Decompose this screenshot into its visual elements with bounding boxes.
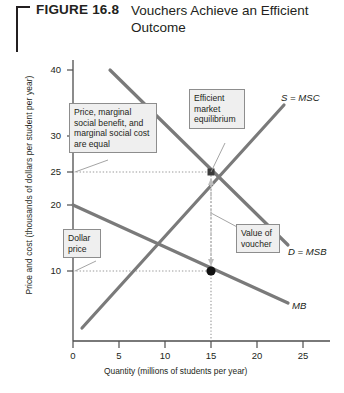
x-tick-label-20: 20 xyxy=(246,350,268,361)
curve-label-demand-msb: D = MSB xyxy=(288,246,327,257)
curve-label-supply-msc: S = MSC xyxy=(281,92,320,103)
y-tick-label-10: 10 xyxy=(35,265,61,276)
x-tick-label-10: 10 xyxy=(154,350,176,361)
x-tick-label-25: 25 xyxy=(292,350,314,361)
y-axis-label: Price and cost (thousands of dollars per… xyxy=(24,60,34,310)
marker-voucher-price-point xyxy=(206,266,215,275)
curve-label-marginal-benefit: MB xyxy=(292,300,306,311)
figure-root: FIGURE 16.8 Vouchers Achieve an Efficien… xyxy=(0,0,344,393)
chart-plot-area: 40 30 25 20 10 0 5 10 15 20 25 Price and… xyxy=(0,0,344,393)
leader-dollar-price-note xyxy=(75,261,96,271)
callout-equal-price-msb-msc: Price, marginal social benefit, and marg… xyxy=(69,103,157,153)
voucher-value-arrow xyxy=(208,178,214,266)
y-tick-label-30: 30 xyxy=(35,130,61,141)
x-tick-label-0: 0 xyxy=(62,350,84,361)
x-tick-label-5: 5 xyxy=(108,350,130,361)
y-tick-label-25: 25 xyxy=(35,166,61,177)
y-tick-label-20: 20 xyxy=(35,199,61,210)
callout-dollar-price: Dollar price xyxy=(63,229,101,258)
leader-voucher-note xyxy=(211,213,239,228)
leader-equilibrium-note xyxy=(211,143,225,172)
callout-efficient-market-equilibrium: Efficient market equilibrium xyxy=(189,89,245,129)
leader-equal-note xyxy=(75,160,108,172)
x-tick-label-15: 15 xyxy=(200,350,222,361)
y-tick-label-40: 40 xyxy=(35,64,61,75)
callout-value-of-voucher: Value of voucher xyxy=(236,224,280,253)
x-axis-label: Quantity (millions of students per year) xyxy=(104,366,344,376)
